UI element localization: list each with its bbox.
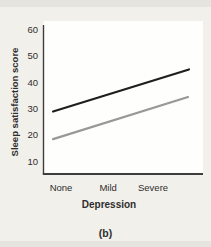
y-tick-label-20: 20 <box>0 129 38 141</box>
y-tick-label-60: 60 <box>0 24 38 36</box>
scan-edge-bottom <box>0 241 211 247</box>
x-axis-title: Depression <box>59 198 159 211</box>
y-tick-label-30: 30 <box>0 103 38 115</box>
x-category-severe: Severe <box>125 182 181 194</box>
y-tick-label-10: 10 <box>0 156 38 168</box>
panel-label: (b) <box>0 227 211 239</box>
y-tick-label-40: 40 <box>0 77 38 89</box>
figure-panel-b: Sleep satisfaction score 605040302010 No… <box>0 0 211 247</box>
y-tick-label-50: 50 <box>0 50 38 62</box>
plot-panel <box>44 21 204 174</box>
